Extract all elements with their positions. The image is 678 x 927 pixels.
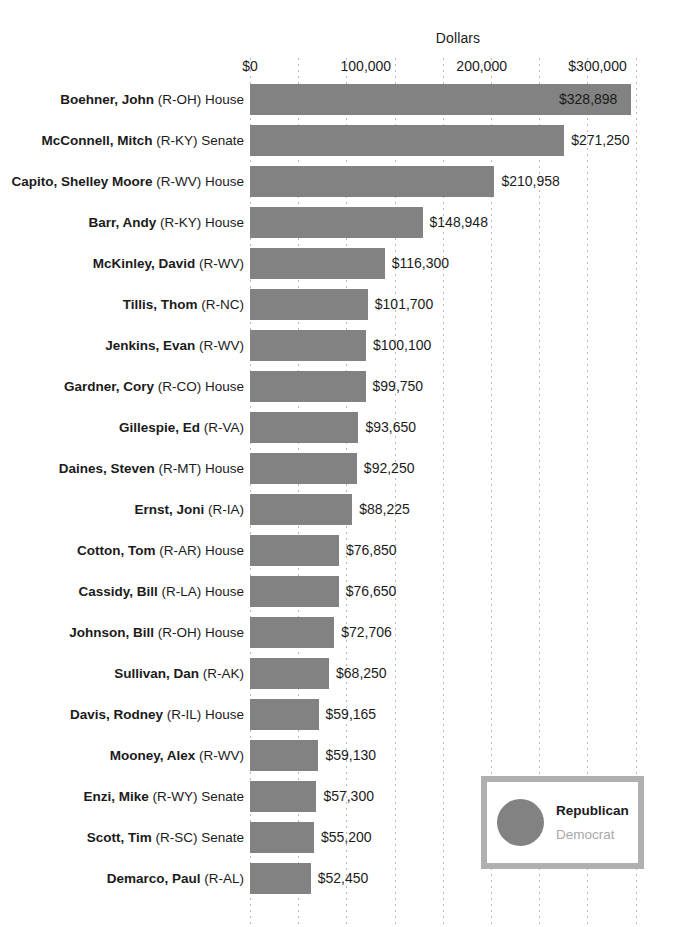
x-tick-label-0: $0 [242,58,258,74]
chart-legend: Republican Democrat [481,776,644,869]
bar-row-label: Capito, Shelley Moore (R-WV) House [11,166,244,197]
bar-row-label: Jenkins, Evan (R-WV) [105,330,244,361]
bar-row-label: Boehner, John (R-OH) House [60,84,244,115]
bar [250,371,366,402]
legislator-party-chamber: (R-AK) [203,666,244,681]
bar-row: McConnell, Mitch (R-KY) Senate$271,250 [0,125,678,166]
bar-row-label: Gardner, Cory (R-CO) House [64,371,244,402]
bar-row: Davis, Rodney (R-IL) House$59,165 [0,699,678,740]
legislator-party-chamber: (R-WV) [199,256,244,271]
bar [250,740,318,771]
legislator-name: Boehner, John [60,92,154,107]
legislator-name: Johnson, Bill [69,625,154,640]
legislator-name: McKinley, David [93,256,196,271]
bar [250,453,357,484]
bar [250,330,366,361]
legend-label-democrat: Democrat [556,827,629,842]
bar-row-label: Cassidy, Bill (R-LA) House [78,576,244,607]
chart-axis-title: Dollars [0,30,678,46]
bar-row-label: McKinley, David (R-WV) [93,248,244,279]
bar [250,781,316,812]
bar [250,166,494,197]
legislator-name: Scott, Tim [87,830,152,845]
x-axis-tick-labels: $0100,000200,000$300,000 [0,58,678,78]
legislator-name: Cassidy, Bill [78,584,157,599]
bar-value-label: $59,165 [326,699,377,730]
bar-row: Daines, Steven (R-MT) House$92,250 [0,453,678,494]
legislator-party-chamber: (R-WY) Senate [152,789,244,804]
bar [250,535,339,566]
legend-label-republican: Republican [556,803,629,818]
bar-row-label: Sullivan, Dan (R-AK) [114,658,244,689]
bar-row-label: Mooney, Alex (R-WV) [110,740,244,771]
legislator-name: Cotton, Tom [77,543,155,558]
bar-row: Johnson, Bill (R-OH) House$72,706 [0,617,678,658]
legislator-party-chamber: (R-WV) [199,338,244,353]
legislator-name: Tillis, Thom [123,297,198,312]
bar-row: Jenkins, Evan (R-WV)$100,100 [0,330,678,371]
legislator-party-chamber: (R-KY) House [160,215,244,230]
bar-value-label: $210,958 [501,166,559,197]
legislator-name: Jenkins, Evan [105,338,195,353]
bar [250,576,339,607]
bar-row-label: McConnell, Mitch (R-KY) Senate [41,125,244,156]
legislator-party-chamber: (R-CO) House [158,379,244,394]
legislator-party-chamber: (R-WV) [199,748,244,763]
legislator-name: Davis, Rodney [70,707,163,722]
legislator-party-chamber: (R-LA) House [161,584,244,599]
bar [250,822,314,853]
bar-row: Capito, Shelley Moore (R-WV) House$210,9… [0,166,678,207]
legislator-party-chamber: (R-SC) Senate [155,830,244,845]
legislator-name: Mooney, Alex [110,748,196,763]
bar-row: Cotton, Tom (R-AR) House$76,850 [0,535,678,576]
bar-row: Cassidy, Bill (R-LA) House$76,650 [0,576,678,617]
bar-row-label: Daines, Steven (R-MT) House [59,453,244,484]
bar-row: Demarco, Paul (R-AL)$52,450 [0,863,678,904]
legislator-name: Ernst, Joni [134,502,204,517]
legend-swatch-circle-icon [497,799,544,846]
bar-row: Gillespie, Ed (R-VA)$93,650 [0,412,678,453]
bar [250,494,352,525]
bar-value-label: $72,706 [341,617,392,648]
bar-value-label: $59,130 [325,740,376,771]
bar [250,863,311,894]
legislator-party-chamber: (R-KY) Senate [156,133,244,148]
bar-value-label: $100,100 [373,330,431,361]
bar-row-label: Scott, Tim (R-SC) Senate [87,822,244,853]
bar-value-label: $148,948 [430,207,488,238]
bar-value-label: $57,300 [323,781,374,812]
bar-row: Mooney, Alex (R-WV)$59,130 [0,740,678,781]
x-tick-label-3: $300,000 [568,58,626,74]
bar-value-label: $92,250 [364,453,415,484]
legislator-name: Enzi, Mike [83,789,148,804]
legislator-party-chamber: (R-VA) [204,420,244,435]
bar [250,412,358,443]
bar-row: Gardner, Cory (R-CO) House$99,750 [0,371,678,412]
bar-value-label: $55,200 [321,822,372,853]
bar [250,289,368,320]
bar-row-label: Gillespie, Ed (R-VA) [119,412,244,443]
bar [250,658,329,689]
bar-row: Ernst, Joni (R-IA)$88,225 [0,494,678,535]
bar-value-label: $116,300 [392,248,449,279]
bar-value-label: $68,250 [336,658,387,689]
axis-title-text: Dollars [436,30,480,46]
bar-value-label: $328,898 [559,84,617,115]
x-tick-label-1: 100,000 [341,58,392,74]
legislator-name: McConnell, Mitch [41,133,152,148]
bar [250,125,564,156]
legislator-party-chamber: (R-AL) [204,871,244,886]
bar-row-label: Barr, Andy (R-KY) House [88,207,244,238]
legislator-name: Barr, Andy [88,215,156,230]
bar-value-label: $76,850 [346,535,397,566]
bar-row: Boehner, John (R-OH) House$328,898 [0,84,678,125]
bar-row-label: Cotton, Tom (R-AR) House [77,535,244,566]
legislator-party-chamber: (R-AR) House [159,543,244,558]
bar-value-label: $52,450 [318,863,369,894]
legislator-name: Sullivan, Dan [114,666,199,681]
legislator-name: Demarco, Paul [107,871,201,886]
bar-value-label: $88,225 [359,494,410,525]
bar-row: Tillis, Thom (R-NC)$101,700 [0,289,678,330]
bar-row: Sullivan, Dan (R-AK)$68,250 [0,658,678,699]
bar-row-label: Demarco, Paul (R-AL) [107,863,244,894]
